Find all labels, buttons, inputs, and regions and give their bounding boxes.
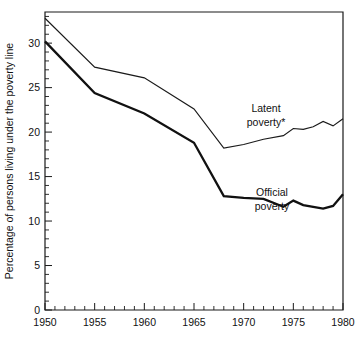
annotation-latent-poverty-line1: Latent: [251, 102, 280, 114]
y-axis-major-ticks: [45, 43, 52, 310]
y-tick-label-20: 20: [28, 126, 40, 138]
y-tick-label-15: 15: [28, 170, 40, 182]
series-line-official-poverty: [45, 41, 343, 208]
annotation-official-poverty-line2: poverty: [255, 200, 290, 212]
x-axis-tick-labels: 1950195519601965197019751980: [33, 316, 355, 328]
y-tick-label-5: 5: [34, 259, 40, 271]
y-tick-label-25: 25: [28, 81, 40, 93]
y-tick-label-30: 30: [28, 37, 40, 49]
plot-frame-border: [45, 12, 343, 310]
poverty-line-chart-figure: 051015202530 195019551960196519701975198…: [0, 0, 356, 361]
annotation-latent-poverty-line2: poverty*: [247, 116, 286, 128]
x-tick-label-1975: 1975: [282, 316, 306, 328]
chart-canvas: 051015202530 195019551960196519701975198…: [0, 0, 356, 361]
x-tick-label-1950: 1950: [33, 316, 57, 328]
annotation-latent-poverty: Latent poverty*: [247, 102, 286, 128]
x-tick-label-1955: 1955: [83, 316, 107, 328]
series-line-latent-poverty: [45, 18, 343, 148]
y-axis-tick-labels: 051015202530: [28, 37, 40, 316]
plot-frame: [45, 12, 343, 310]
y-tick-label-10: 10: [28, 215, 40, 227]
annotation-official-poverty-line1: Official: [256, 186, 288, 198]
y-axis-title: Percentage of persons living under the p…: [3, 43, 15, 280]
x-tick-label-1960: 1960: [133, 316, 157, 328]
x-axis-major-ticks: [45, 303, 343, 310]
x-tick-label-1980: 1980: [331, 316, 355, 328]
x-tick-label-1965: 1965: [182, 316, 206, 328]
x-tick-label-1970: 1970: [232, 316, 256, 328]
y-tick-label-0: 0: [34, 304, 40, 316]
